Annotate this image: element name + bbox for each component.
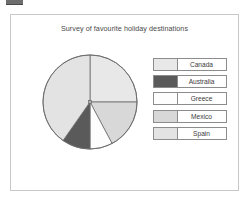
chart-legend: CanadaAustraliaGreeceMexicoSpain (153, 58, 227, 144)
legend-swatch-icon (154, 93, 178, 104)
legend-item-greece[interactable]: Greece (153, 92, 227, 105)
legend-item-label: Mexico (178, 111, 226, 122)
legend-item-label: Spain (178, 128, 226, 139)
legend-item-spain[interactable]: Spain (153, 127, 227, 140)
legend-item-label: Australia (178, 76, 226, 87)
legend-swatch-icon (154, 76, 178, 87)
chart-title: Survey of favourite holiday destinations (11, 24, 238, 33)
legend-item-australia[interactable]: Australia (153, 75, 227, 88)
pie-center-marker (89, 101, 92, 104)
legend-swatch-icon (154, 128, 178, 139)
top-edge-artifact (6, 0, 23, 5)
pie-slice-canada[interactable] (90, 55, 137, 102)
legend-item-label: Canada (178, 59, 226, 70)
legend-swatch-icon (154, 59, 178, 70)
legend-swatch-icon (154, 111, 178, 122)
legend-item-mexico[interactable]: Mexico (153, 110, 227, 123)
legend-item-canada[interactable]: Canada (153, 58, 227, 71)
pie-chart-svg (41, 53, 139, 151)
chart-panel: Survey of favourite holiday destinations… (10, 14, 239, 191)
legend-item-label: Greece (178, 93, 226, 104)
pie-chart (41, 53, 139, 151)
